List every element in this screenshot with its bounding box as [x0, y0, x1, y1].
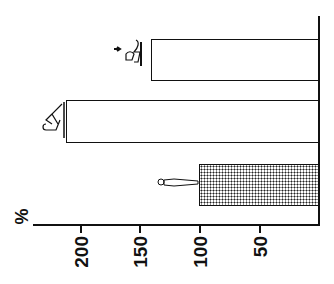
- tick-label-200: 200: [70, 236, 94, 276]
- tick-label-50: 50: [249, 236, 273, 276]
- unit-label: %: [12, 208, 33, 224]
- bar-sitting-leaning: [151, 39, 319, 81]
- tick-50: [259, 226, 261, 233]
- seated-figure-arrow-icon: [112, 36, 152, 76]
- bar-sitting: [66, 100, 319, 143]
- seated-figure-icon: [40, 100, 68, 140]
- tick-150: [139, 226, 141, 233]
- tick-100: [199, 226, 201, 233]
- value-axis: [33, 224, 320, 226]
- tick-label-100: 100: [189, 236, 213, 276]
- tick-200: [80, 226, 82, 233]
- bar-standing: [199, 164, 319, 206]
- tick-label-150: 150: [129, 236, 153, 276]
- standing-figure-icon: [156, 174, 200, 190]
